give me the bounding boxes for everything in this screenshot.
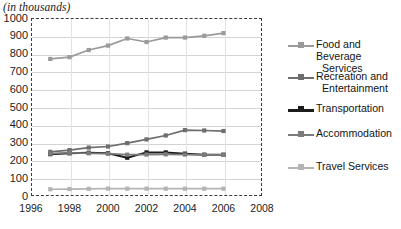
data-point-marker xyxy=(202,187,206,191)
data-point-marker xyxy=(48,57,52,61)
x-tick-label: 2008 xyxy=(242,203,282,214)
data-point-marker xyxy=(202,34,206,38)
legend-swatch-icon xyxy=(288,71,314,84)
data-point-marker xyxy=(144,187,148,191)
legend-item-label: Accommodation xyxy=(314,127,392,139)
legend-item-label: Transportation xyxy=(314,102,384,114)
data-point-marker xyxy=(183,152,187,156)
data-point-marker xyxy=(202,128,206,132)
data-point-marker xyxy=(125,141,129,145)
data-point-marker xyxy=(87,187,91,191)
series-5 xyxy=(48,186,225,191)
data-point-marker xyxy=(106,186,110,190)
data-point-marker xyxy=(164,133,168,137)
data-point-marker xyxy=(125,153,129,157)
legend-item-2[interactable]: Recreation andEntertainment xyxy=(288,70,388,94)
data-point-marker xyxy=(106,43,110,47)
series-line xyxy=(50,33,223,59)
series-1 xyxy=(48,31,225,61)
x-tick-label: 2002 xyxy=(127,203,167,214)
data-point-marker xyxy=(125,187,129,191)
legend-item-label: Travel Services xyxy=(314,160,389,172)
legend-swatch-icon xyxy=(288,103,314,116)
data-point-marker xyxy=(48,187,52,191)
data-point-marker xyxy=(183,187,187,191)
series-line xyxy=(50,189,223,190)
data-point-marker xyxy=(164,187,168,191)
x-tick-label: 2004 xyxy=(165,203,205,214)
legend-item-5[interactable]: Travel Services xyxy=(288,160,389,174)
x-tick-label: 2006 xyxy=(204,203,244,214)
legend-item-3[interactable]: Transportation xyxy=(288,102,384,116)
x-tick-label: 1996 xyxy=(11,203,51,214)
data-point-marker xyxy=(221,31,225,35)
series-line xyxy=(50,130,223,152)
data-point-marker xyxy=(144,137,148,141)
data-point-marker xyxy=(221,153,225,157)
data-point-marker xyxy=(87,151,91,155)
data-point-marker xyxy=(221,129,225,133)
chart-container: (in thousands) 0100200300400500600700800… xyxy=(0,0,401,229)
data-point-marker xyxy=(67,151,71,155)
data-point-marker xyxy=(67,187,71,191)
x-tick-label: 2000 xyxy=(88,203,128,214)
data-point-marker xyxy=(164,152,168,156)
data-point-marker xyxy=(183,128,187,132)
data-point-marker xyxy=(144,40,148,44)
x-tick-label: 1998 xyxy=(50,203,90,214)
data-point-marker xyxy=(87,145,91,149)
data-point-marker xyxy=(144,152,148,156)
legend-item-label: Recreation andEntertainment xyxy=(314,70,388,94)
legend-swatch-icon xyxy=(288,39,314,52)
legend-swatch-icon xyxy=(288,128,314,141)
data-point-marker xyxy=(164,35,168,39)
legend-swatch-icon xyxy=(288,161,314,174)
data-point-marker xyxy=(87,48,91,52)
data-point-marker xyxy=(183,35,187,39)
data-point-marker xyxy=(67,55,71,59)
legend-item-4[interactable]: Accommodation xyxy=(288,127,392,141)
data-point-marker xyxy=(221,187,225,191)
series-2 xyxy=(48,128,225,154)
x-axis-tick-labels: 1996199820002002200420062008 xyxy=(31,203,291,217)
data-point-marker xyxy=(48,152,52,156)
data-point-marker xyxy=(202,153,206,157)
data-point-marker xyxy=(125,36,129,40)
data-point-marker xyxy=(106,144,110,148)
legend-item-label-line2: Entertainment xyxy=(316,82,388,94)
data-point-marker xyxy=(106,152,110,156)
